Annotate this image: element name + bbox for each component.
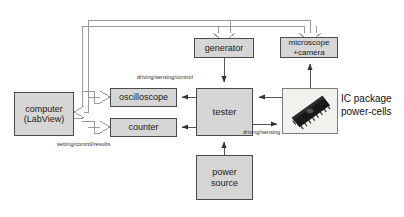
- node-counter[interactable]: counter: [110, 118, 177, 137]
- edge-label-setting-control-results: setting/control/results: [57, 141, 110, 147]
- node-generator[interactable]: generator: [194, 38, 254, 58]
- node-power-source-label: power source: [197, 167, 252, 188]
- edge-label-driving-sensing-control: driving/sensing/control: [137, 74, 193, 80]
- node-oscilloscope[interactable]: oscilloscope: [110, 88, 177, 107]
- node-computer-label: computer (LabView): [15, 104, 73, 125]
- dip-ic-package-photo[interactable]: [282, 88, 338, 134]
- node-generator-label: generator: [195, 43, 253, 53]
- dip-ic-package-icon: [283, 89, 337, 133]
- edge-label-driving-sensing: driving/sensing: [243, 129, 280, 135]
- node-microscope-camera[interactable]: microscope +camera: [280, 37, 338, 58]
- node-microscope-camera-label: microscope +camera: [281, 38, 337, 56]
- node-oscilloscope-label: oscilloscope: [111, 92, 176, 102]
- node-tester-label: tester: [197, 107, 252, 118]
- node-counter-label: counter: [111, 122, 176, 132]
- ic-package-caption: IC package power-cells: [341, 93, 392, 118]
- block-diagram-canvas: computer (LabView) oscilloscope counter …: [0, 0, 404, 217]
- node-computer[interactable]: computer (LabView): [14, 92, 74, 136]
- node-power-source[interactable]: power source: [196, 155, 253, 200]
